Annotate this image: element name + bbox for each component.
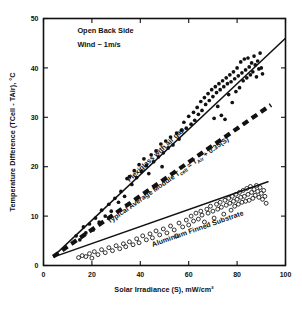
data-point	[161, 227, 165, 231]
x-tick-label: 100	[280, 271, 292, 278]
data-point	[247, 65, 251, 69]
data-point	[243, 57, 247, 61]
data-point	[238, 86, 242, 90]
data-point	[184, 126, 188, 130]
data-point	[205, 207, 209, 211]
data-point	[90, 256, 94, 260]
data-point	[251, 70, 255, 74]
data-point	[203, 96, 207, 100]
data-point	[253, 63, 257, 67]
data-point	[100, 208, 104, 212]
data-point	[199, 209, 203, 213]
data-point	[181, 225, 185, 229]
data-point	[177, 221, 181, 225]
data-point	[232, 70, 236, 74]
x-tick-labels: 020406080100	[42, 271, 292, 278]
data-point	[88, 252, 92, 256]
data-point	[195, 106, 199, 110]
data-point	[250, 61, 254, 65]
data-point	[97, 220, 101, 224]
data-point	[261, 72, 265, 76]
data-point	[255, 75, 259, 79]
data-point	[192, 111, 196, 115]
data-point	[111, 249, 115, 253]
data-point	[78, 238, 82, 242]
data-point	[223, 117, 227, 121]
data-point	[229, 80, 233, 84]
data-point	[212, 116, 216, 120]
chart-figure: 020406080100 01020304050 Plexiglass with…	[0, 0, 302, 312]
data-point	[118, 247, 122, 251]
y-tick-label: 40	[31, 65, 39, 72]
data-point	[219, 205, 223, 209]
data-point	[218, 200, 222, 204]
data-point	[230, 101, 234, 105]
data-point	[207, 99, 211, 103]
data-point	[235, 66, 239, 70]
data-point	[224, 76, 228, 80]
data-point	[234, 90, 238, 94]
data-point	[172, 228, 176, 232]
data-point	[141, 234, 145, 238]
data-point	[217, 82, 221, 86]
data-point	[114, 244, 118, 248]
data-point	[107, 246, 111, 250]
data-point	[227, 93, 231, 97]
data-point	[211, 209, 215, 213]
data-point	[124, 245, 128, 249]
y-tick-label: 50	[31, 15, 39, 22]
data-point	[245, 76, 249, 80]
data-point	[215, 91, 219, 95]
data-point	[218, 88, 222, 92]
condition-line-2: Wind ~ 1m/s	[77, 40, 120, 49]
data-point	[249, 73, 253, 77]
data-point	[148, 232, 152, 236]
data-point	[127, 240, 131, 244]
data-point	[244, 68, 248, 72]
data-point	[204, 103, 208, 107]
data-point	[187, 114, 191, 118]
data-point	[246, 56, 250, 60]
data-point	[189, 214, 193, 218]
data-point	[193, 118, 197, 122]
data-point	[216, 105, 220, 109]
data-point	[184, 218, 188, 222]
data-point	[258, 186, 262, 190]
data-point	[196, 217, 200, 221]
data-point	[259, 66, 263, 70]
data-point	[91, 228, 95, 232]
data-point	[182, 120, 186, 124]
data-point	[131, 243, 135, 247]
data-point	[206, 211, 210, 215]
x-axis-title: Solar Irradiance (S), mW/cm²	[114, 285, 214, 294]
data-point	[103, 251, 107, 255]
data-point	[229, 208, 233, 212]
x-tick-label: 80	[233, 271, 241, 278]
data-point	[107, 202, 111, 206]
data-point	[221, 79, 225, 83]
data-point	[206, 92, 210, 96]
data-point	[88, 222, 92, 226]
data-point	[147, 172, 151, 176]
data-point	[222, 85, 226, 89]
data-point	[94, 216, 98, 220]
data-point	[109, 209, 113, 213]
x-tick-label: 20	[88, 271, 96, 278]
data-point	[220, 113, 224, 117]
data-point	[192, 219, 196, 223]
data-point	[210, 88, 214, 92]
data-point	[160, 165, 164, 169]
data-point	[240, 71, 244, 75]
data-point	[154, 229, 158, 233]
data-point	[263, 194, 267, 198]
data-point	[256, 59, 260, 63]
data-point	[137, 241, 141, 245]
data-point	[158, 233, 162, 237]
data-point	[262, 188, 266, 192]
data-point	[100, 248, 104, 252]
y-tick-label: 20	[31, 163, 39, 170]
y-tick-labels: 01020304050	[31, 15, 39, 269]
data-point	[199, 100, 203, 104]
y-tick-label: 10	[31, 213, 39, 220]
data-point	[74, 234, 78, 238]
